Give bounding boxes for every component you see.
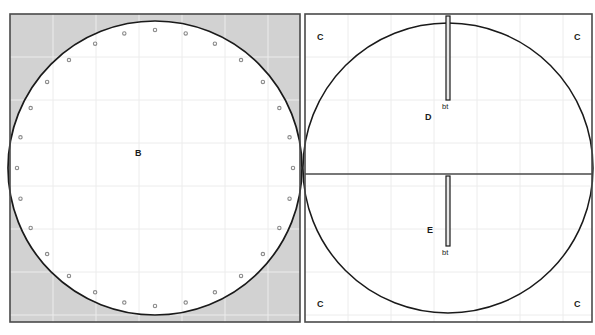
region-label-b: B [135,149,142,158]
boundary-node-marker [67,58,70,61]
boundary-node-marker [45,80,48,83]
boundary-node-marker [29,106,32,109]
slit-lower [446,176,450,246]
boundary-region-figure: B D E C C C C bt bt [0,0,595,335]
slit-label-bt-lower: bt [442,249,448,257]
slit-label-bt-upper: bt [442,103,448,111]
boundary-node-marker [93,42,96,45]
region-label-c-top-right: C [574,33,581,42]
boundary-node-marker [213,42,216,45]
region-label-c-bottom-left: C [317,300,324,309]
region-label-c-top-left: C [317,33,324,42]
boundary-node-marker [19,197,22,200]
region-label-c-bottom-right: C [574,300,581,309]
boundary-node-marker [184,301,187,304]
boundary-node-marker [184,32,187,35]
boundary-node-marker [261,80,264,83]
boundary-node-marker [261,252,264,255]
boundary-node-marker [29,226,32,229]
boundary-node-marker [123,301,126,304]
boundary-node-marker [239,58,242,61]
boundary-node-marker [15,166,18,169]
boundary-node-marker [93,291,96,294]
boundary-node-marker [153,28,156,31]
boundary-node-marker [291,166,294,169]
boundary-node-marker [123,32,126,35]
boundary-node-marker [19,136,22,139]
boundary-node-marker [288,197,291,200]
region-label-d: D [425,113,432,122]
boundary-node-marker [213,291,216,294]
boundary-node-marker [239,274,242,277]
boundary-node-marker [67,274,70,277]
region-label-e: E [427,226,433,235]
slit-upper [446,16,450,100]
boundary-node-marker [45,252,48,255]
figure-canvas [0,0,595,335]
boundary-node-marker [288,136,291,139]
boundary-node-marker [278,226,281,229]
boundary-node-marker [153,304,156,307]
boundary-node-marker [278,106,281,109]
